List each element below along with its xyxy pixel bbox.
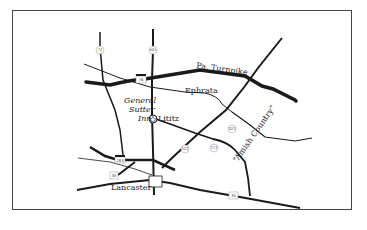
- ephrata-label: Ephrata: [185, 86, 218, 95]
- inn-label-line3: Inn: [137, 114, 151, 123]
- inn-label-line2: Sutter: [129, 105, 156, 114]
- route-283-shield: 283: [115, 155, 125, 163]
- route-30-west-shield: 30: [110, 172, 118, 179]
- lititz-label: Lititz: [158, 114, 179, 123]
- route-772-shield: 772: [210, 144, 218, 152]
- route-501-shield: 501: [149, 46, 157, 54]
- svg-text:30: 30: [231, 194, 236, 198]
- route-30-east-shield: 30: [229, 192, 238, 199]
- route-322-shield: 322: [228, 125, 236, 133]
- svg-text:283: 283: [117, 159, 124, 163]
- svg-text:772: 772: [211, 146, 218, 150]
- turnpike-shield: 76: [136, 74, 146, 83]
- svg-text:76: 76: [139, 78, 144, 82]
- svg-text:322: 322: [229, 127, 236, 131]
- route-222-shield: 222: [181, 145, 189, 153]
- amish-country-label: “Amish Country”: [231, 104, 277, 165]
- road-map: 72 501 76 283 30 222 772 322 30 Pa. Turn…: [0, 0, 367, 230]
- lancaster-label: Lancaster: [111, 183, 152, 192]
- route-72-shield: 72: [96, 46, 104, 54]
- svg-text:30: 30: [112, 174, 117, 178]
- svg-text:72: 72: [98, 48, 103, 52]
- turnpike-label: Pa. Turnpike: [196, 61, 249, 77]
- svg-text:222: 222: [182, 147, 189, 151]
- svg-text:501: 501: [150, 48, 157, 52]
- inn-label-line1: General: [124, 96, 157, 105]
